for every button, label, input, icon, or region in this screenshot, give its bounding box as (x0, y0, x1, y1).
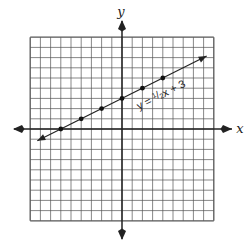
plotted-point (58, 127, 63, 132)
plotted-point (79, 116, 84, 121)
x-axis-negative-arrow-icon (13, 125, 25, 133)
coordinate-plane: y x y = 1/2x + 3 (0, 0, 250, 250)
y-axis-positive-arrow-icon (118, 20, 126, 32)
line-arrow-right-icon (198, 56, 207, 62)
svg-text:y = 1/2x + 3: y = 1/2x + 3 (134, 77, 187, 112)
plotted-point (140, 86, 145, 91)
y-axis-negative-arrow-icon (118, 229, 126, 241)
plotted-point (99, 106, 104, 111)
equation-label: y = 1/2x + 3 (134, 77, 187, 112)
line-arrow-left-icon (37, 134, 46, 140)
axes (13, 20, 232, 240)
plotted-point (160, 76, 165, 81)
y-axis-label: y (116, 4, 125, 19)
x-axis-label: x (236, 121, 244, 136)
plotted-point (120, 96, 125, 101)
x-axis-positive-arrow-icon (221, 125, 233, 133)
